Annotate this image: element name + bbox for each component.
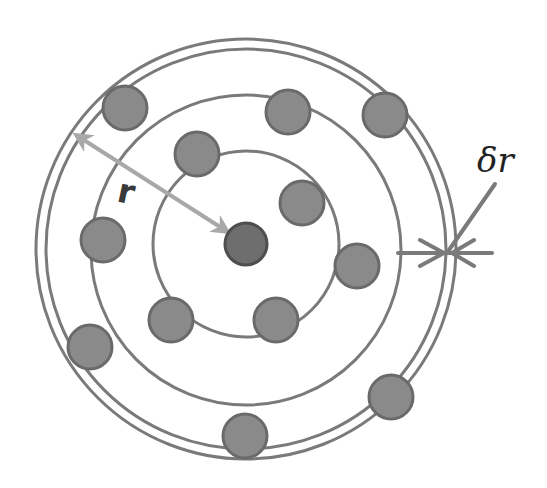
shell-particle [363,93,407,137]
central-particle [225,223,267,265]
shell-particle [369,375,413,419]
delta-r-indicator [398,184,495,266]
shell-particle [68,325,112,369]
shell-particle [81,218,125,262]
shell-particle [149,298,193,342]
shell-particle [335,244,379,288]
radius-label: r [114,170,139,213]
shell-particle [266,90,310,134]
shell-particle [223,414,267,458]
shell-particle [103,86,147,130]
shell-particle [175,132,219,176]
shell-diagram: r δr [0,0,547,488]
shell-particle [254,298,298,342]
delta-r-label: δr [477,140,515,180]
shell-particle [280,181,324,225]
